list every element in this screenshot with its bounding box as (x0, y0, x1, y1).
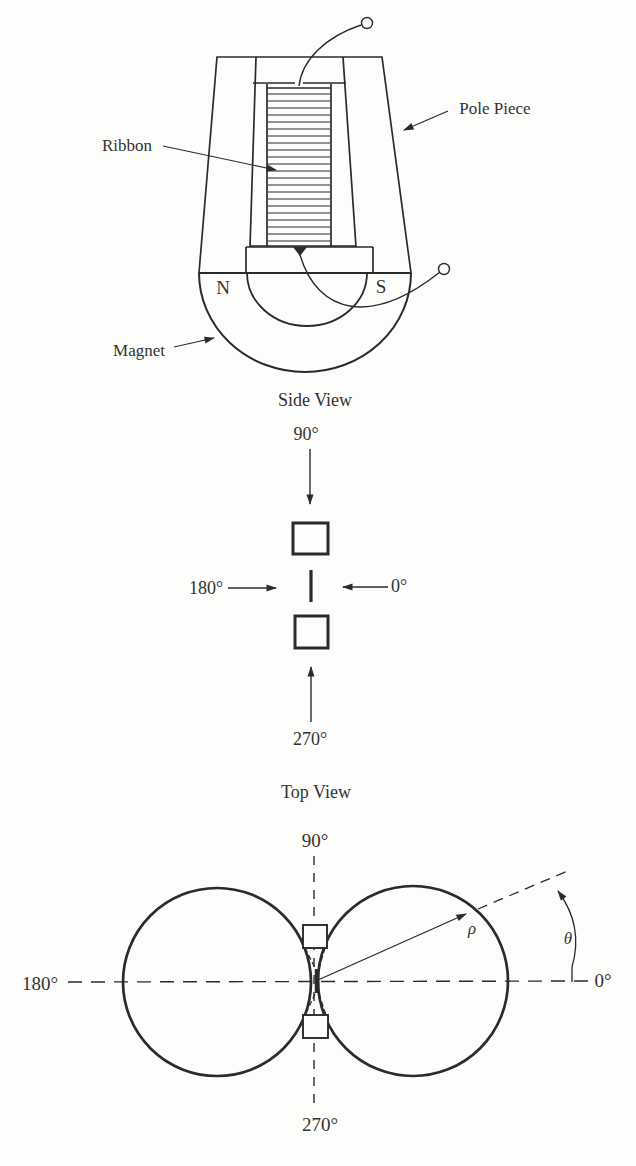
south-pole-label: S (376, 276, 387, 297)
pole-piece-callout-arrow (404, 111, 448, 130)
ribbon-label: Ribbon (102, 136, 153, 155)
polar-angle-90: 90° (302, 830, 329, 851)
north-pole-label: N (216, 277, 230, 298)
rho-arrow (318, 914, 466, 980)
top-view-angle-90: 90° (293, 424, 318, 444)
polar-bottom-square (303, 1015, 328, 1038)
ribbon-callout-arrow (163, 146, 276, 170)
theta-symbol: θ (564, 929, 572, 948)
top-view-figure (228, 449, 388, 722)
top-view-angle-0: 0° (391, 576, 407, 596)
wire-connector (293, 247, 307, 256)
top-terminal (362, 18, 373, 29)
rho-extension-dashed (478, 870, 570, 909)
polar-angle-270: 270° (302, 1114, 338, 1135)
rho-symbol: ρ (467, 919, 476, 938)
bottom-plate (246, 247, 373, 273)
magnet-inner-u (247, 273, 367, 326)
magnet-callout-arrow (174, 338, 214, 347)
polar-top-square (303, 925, 327, 948)
top-view-angle-270: 270° (293, 729, 327, 749)
side-view-figure (163, 18, 450, 372)
figure-canvas: Ribbon Pole Piece Magnet N S Side View 9… (0, 0, 636, 1166)
bottom-lead-wire (300, 255, 440, 307)
polar-angle-180: 180° (22, 973, 58, 994)
left-limb-line (250, 57, 256, 247)
top-view-caption: Top View (281, 782, 351, 802)
top-view-angle-180: 180° (189, 578, 223, 598)
top-pole-square (293, 523, 328, 554)
top-lead-wire (299, 25, 361, 86)
magnet-label: Magnet (113, 341, 165, 360)
polar-pattern-figure (68, 856, 588, 1104)
polar-angle-0: 0° (594, 970, 611, 991)
polar-axis-horizontal (68, 981, 588, 982)
ribbon-microphone-figure: Ribbon Pole Piece Magnet N S Side View 9… (0, 0, 636, 1166)
side-view-caption: Side View (278, 390, 352, 410)
right-limb-line (343, 57, 356, 247)
ribbon-hatch (268, 94, 330, 241)
bottom-pole-square (295, 616, 328, 648)
pole-piece-label: Pole Piece (459, 99, 530, 118)
bottom-terminal (439, 264, 450, 275)
